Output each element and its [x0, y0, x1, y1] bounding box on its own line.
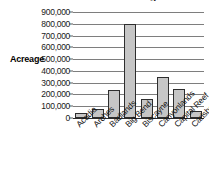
y-tick-label: 300,000 [41, 78, 70, 88]
bar [157, 77, 169, 118]
bar [108, 90, 120, 118]
y-tick-label: 0 [66, 113, 70, 123]
y-axis-title: Acreage [2, 54, 44, 64]
bar-series [73, 12, 204, 118]
bar-chart: National Park Acreage Acreage 900,000800… [0, 0, 209, 179]
bar [124, 24, 136, 118]
chart-title: National Park Acreage [0, 0, 209, 1]
y-tick-label: 400,000 [41, 66, 70, 76]
bar [75, 113, 87, 118]
bar [190, 111, 202, 118]
bar [92, 109, 104, 118]
y-tick-label: 700,000 [41, 31, 70, 41]
bar [141, 99, 153, 118]
y-tick-label: 100,000 [41, 101, 70, 111]
y-tick-label: 900,000 [41, 7, 70, 17]
bar [173, 89, 185, 118]
y-tick-label: 200,000 [41, 89, 70, 99]
axis-baseline [73, 118, 204, 119]
y-tick-label: 500,000 [41, 54, 70, 64]
plot-area: 900,000800,000700,000600,000500,000400,0… [73, 12, 204, 118]
y-tick-label: 800,000 [41, 19, 70, 29]
y-tick-label: 600,000 [41, 42, 70, 52]
